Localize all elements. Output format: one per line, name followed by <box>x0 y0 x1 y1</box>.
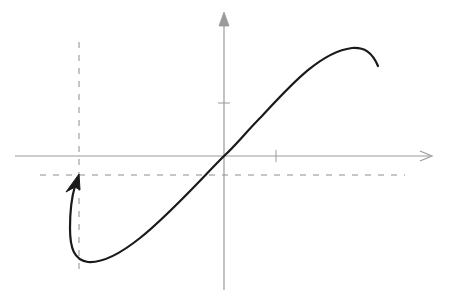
function-graph <box>0 0 450 306</box>
y-axis-arrow-icon <box>219 12 229 26</box>
graph-canvas <box>0 0 450 306</box>
